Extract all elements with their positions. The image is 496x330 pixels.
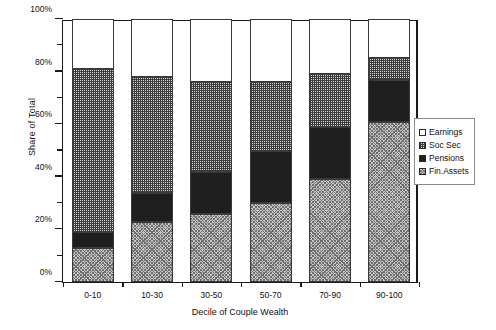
stacked-bar-chart: Share of Total Decile of Couple Wealth 0… <box>0 0 496 330</box>
bar-segment-earnings[interactable] <box>368 19 410 58</box>
bar-segment-earnings[interactable] <box>131 19 173 77</box>
plot-area: 0%20%40%60%80%100% 0-1010-3030-5050-7070… <box>62 20 418 283</box>
y-axis-tick-label: 0% <box>40 267 52 277</box>
bar-segment-earnings[interactable] <box>190 19 232 82</box>
y-axis-tick-label: 40% <box>35 162 52 172</box>
bar-50-70[interactable] <box>250 19 292 282</box>
y-axis-minor-tick <box>57 202 63 203</box>
chart-legend: EarningsSoc SecPensionsFin.Assets <box>414 118 475 185</box>
legend-item-label: Fin.Assets <box>429 166 469 176</box>
bar-segment-soc-sec[interactable] <box>368 58 410 79</box>
x-axis-tick-label: 90-100 <box>376 290 402 300</box>
y-axis-tick-label: 100% <box>30 4 52 14</box>
legend-item-label: Earnings <box>429 127 463 137</box>
bar-segment-pensions[interactable] <box>250 151 292 204</box>
x-axis-tick <box>241 282 242 287</box>
bar-segment-soc-sec[interactable] <box>72 69 114 232</box>
bar-90-100[interactable] <box>368 19 410 282</box>
y-axis-tick <box>55 228 63 229</box>
legend-swatch-icon <box>419 168 426 175</box>
bar-70-90[interactable] <box>309 19 351 282</box>
y-axis-tick-label: 20% <box>35 214 52 224</box>
y-axis-tick-label: 60% <box>35 109 52 119</box>
x-axis-title: Decile of Couple Wealth <box>62 307 418 317</box>
x-axis-tick-label: 10-30 <box>141 290 163 300</box>
bar-10-30[interactable] <box>131 19 173 282</box>
y-axis-tick <box>55 123 63 124</box>
legend-swatch-icon <box>419 142 426 149</box>
x-axis-tick <box>360 282 361 287</box>
bar-segment-earnings[interactable] <box>309 19 351 74</box>
bar-segment-fin-assets[interactable] <box>190 214 232 282</box>
bar-segment-earnings[interactable] <box>72 19 114 69</box>
x-axis-tick <box>122 282 123 287</box>
bar-segment-pensions[interactable] <box>72 232 114 248</box>
legend-item-pensions[interactable]: Pensions <box>419 153 469 163</box>
y-axis-tick <box>55 175 63 176</box>
y-axis-tick-label: 80% <box>35 57 52 67</box>
bar-segment-soc-sec[interactable] <box>309 74 351 127</box>
legend-item-fin-assets[interactable]: Fin.Assets <box>419 166 469 176</box>
plot-top-border <box>63 20 418 21</box>
bar-segment-soc-sec[interactable] <box>250 82 292 150</box>
x-axis-tick <box>419 282 420 287</box>
bar-0-10[interactable] <box>72 19 114 282</box>
y-axis-minor-tick <box>57 149 63 150</box>
bar-segment-soc-sec[interactable] <box>131 77 173 193</box>
bar-segment-fin-assets[interactable] <box>368 122 410 282</box>
bar-segment-soc-sec[interactable] <box>190 82 232 171</box>
bar-segment-pensions[interactable] <box>368 80 410 122</box>
legend-swatch-icon <box>419 155 426 162</box>
y-axis-tick <box>55 281 63 282</box>
legend-item-earnings[interactable]: Earnings <box>419 127 469 137</box>
bar-30-50[interactable] <box>190 19 232 282</box>
bar-segment-pensions[interactable] <box>190 172 232 214</box>
bar-segment-pensions[interactable] <box>309 127 351 180</box>
x-axis-tick-label: 0-10 <box>84 290 101 300</box>
legend-swatch-icon <box>419 129 426 136</box>
legend-item-label: Soc Sec <box>429 140 461 150</box>
legend-item-label: Pensions <box>429 153 464 163</box>
bar-segment-pensions[interactable] <box>131 193 173 222</box>
y-axis-minor-tick <box>57 44 63 45</box>
bar-segment-fin-assets[interactable] <box>72 248 114 282</box>
y-axis-tick <box>55 18 63 19</box>
y-axis-minor-tick <box>57 255 63 256</box>
legend-item-soc-sec[interactable]: Soc Sec <box>419 140 469 150</box>
x-axis-tick-label: 50-70 <box>260 290 282 300</box>
x-axis-tick <box>182 282 183 287</box>
bar-segment-fin-assets[interactable] <box>250 203 292 282</box>
y-axis-tick <box>55 70 63 71</box>
x-axis-tick-label: 70-90 <box>319 290 341 300</box>
x-axis-tick <box>300 282 301 287</box>
bar-segment-fin-assets[interactable] <box>131 222 173 282</box>
x-axis-tick <box>63 282 64 287</box>
bar-segment-fin-assets[interactable] <box>309 179 351 282</box>
bar-segment-earnings[interactable] <box>250 19 292 82</box>
y-axis-minor-tick <box>57 97 63 98</box>
x-axis-tick-label: 30-50 <box>200 290 222 300</box>
